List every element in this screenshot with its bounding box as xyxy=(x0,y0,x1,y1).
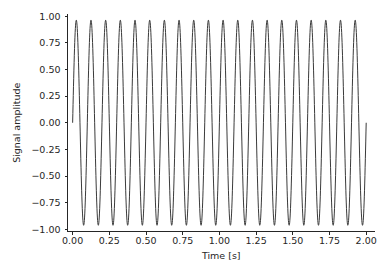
x-tick-label: 0.25 xyxy=(99,235,120,246)
y-tick-label: 0.25 xyxy=(39,90,60,101)
x-tick-label: 1.00 xyxy=(209,235,230,246)
x-axis-label: Time [s] xyxy=(201,250,241,261)
x-tick-label: 1.25 xyxy=(246,235,267,246)
chart-figure: 1.000.750.500.250.00−0.25−0.50−0.75−1.00… xyxy=(0,0,388,280)
x-tick-label: 2.00 xyxy=(356,235,377,246)
y-tick-label: −0.50 xyxy=(31,170,60,181)
x-tick-label: 1.75 xyxy=(319,235,340,246)
y-tick-label: 1.00 xyxy=(39,11,60,22)
x-tick-label: 0.00 xyxy=(62,235,83,246)
signal-plot: 1.000.750.500.250.00−0.25−0.50−0.75−1.00… xyxy=(0,0,388,280)
y-tick-label: −1.00 xyxy=(31,224,60,235)
x-tick-label: 0.75 xyxy=(172,235,193,246)
x-axis-tick-labels: 0.000.250.500.751.001.251.501.752.00 xyxy=(62,235,377,246)
x-tick-label: 1.50 xyxy=(282,235,303,246)
y-axis-label: Signal amplitude xyxy=(11,82,22,162)
x-tick-label: 0.50 xyxy=(135,235,156,246)
y-tick-label: 0.50 xyxy=(39,64,60,75)
y-tick-label: −0.75 xyxy=(31,197,60,208)
y-tick-label: 0.00 xyxy=(39,117,60,128)
y-tick-label: 0.75 xyxy=(39,37,60,48)
y-tick-label: −0.25 xyxy=(31,144,60,155)
